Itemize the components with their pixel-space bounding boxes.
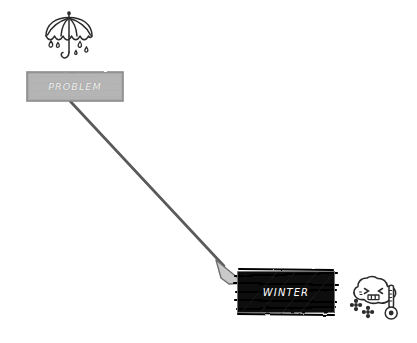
node-problem[interactable]: PROBLEM: [27, 72, 123, 101]
arrow-problem-to-winter: [70, 101, 224, 266]
node-winter[interactable]: WINTER: [237, 271, 335, 313]
diagram-canvas: PROBLEM: [0, 0, 417, 343]
node-winter-label: WINTER: [263, 287, 309, 298]
cold-cloud-thermometer-icon: [347, 268, 407, 326]
node-problem-label: PROBLEM: [48, 81, 102, 92]
thermometer-bulb: [389, 311, 394, 316]
umbrella-rain-icon: [40, 11, 98, 67]
